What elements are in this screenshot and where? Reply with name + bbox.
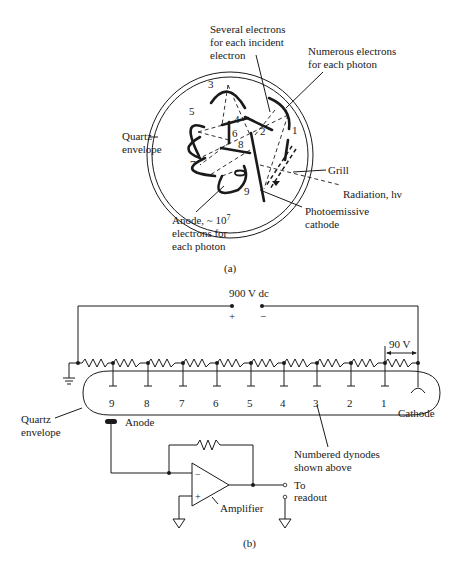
dynode-2 [245,117,272,130]
leader-several [256,55,270,112]
svg-text:for each incident: for each incident [210,36,284,48]
plus-terminal: + [229,310,235,322]
label-step-voltage: 90 V [389,338,411,350]
dynode-number-5: 5 [189,105,195,117]
dynode-number-2: 2 [260,125,266,137]
svg-text:2: 2 [347,397,353,409]
leader-anode [196,186,224,212]
label-several-electrons: Several electrons [210,23,285,35]
dynode-number-9: 9 [244,185,250,197]
label-radiation: Radiation, hν [343,188,402,200]
svg-text:1: 1 [381,397,387,409]
svg-text:6: 6 [213,397,219,409]
dynode-labels-b: 9 8 7 6 5 4 3 2 1 [109,397,387,409]
svg-text:electron: electron [210,49,246,61]
resistor-chain [78,359,418,367]
dynode-number-4: 4 [234,113,240,125]
output-terminal [283,483,287,487]
svg-text:5: 5 [247,397,253,409]
label-to-readout: To [294,479,306,491]
svg-text:for each photon: for each photon [308,58,378,70]
label-quartz-envelope-a: Quartz [122,130,152,142]
svg-text:3: 3 [313,397,319,409]
svg-text:4: 4 [280,397,286,409]
caption-b: (b) [243,537,256,550]
svg-text:shown above: shown above [294,461,352,473]
dynode-number-7: 7 [190,158,196,170]
label-quartz-envelope-b: Quartz [21,413,51,425]
figure-a-cross-section: 3 1 2 4 5 6 7 8 9 Several electrons for … [122,23,402,275]
label-photoemissive-cathode: Photoemissive [305,205,369,217]
dynode-1 [285,140,288,160]
label-anode-b: Anode [125,416,154,428]
svg-text:9: 9 [109,397,115,409]
svg-text:envelope: envelope [21,426,61,438]
caption-a: (a) [224,262,237,275]
label-amplifier: Amplifier [220,502,264,514]
anode-b [105,419,117,424]
figure-b-schematic: 900 V dc + − [21,287,440,550]
dynode-number-8: 8 [238,138,244,150]
anode [235,171,245,176]
svg-text:7: 7 [179,397,185,409]
feedback-resistor [169,440,253,485]
dynode-number-1: 1 [292,124,298,136]
svg-text:readout: readout [294,491,327,503]
svg-text:−: − [195,469,201,480]
dynode-number-3: 3 [208,78,214,90]
label-anode-a: Anode, ~ 107 [172,213,231,226]
svg-text:cathode: cathode [305,218,339,230]
leader-numerous [286,72,323,108]
svg-text:each photon: each photon [172,240,226,252]
svg-text:8: 8 [144,397,150,409]
electron-paths [198,85,340,189]
label-supply-voltage: 900 V dc [229,287,269,299]
leader-cathode [260,190,302,207]
photomultiplier-figure: 3 1 2 4 5 6 7 8 9 Several electrons for … [0,0,461,564]
label-numbered-dynodes: Numbered dynodes [294,448,380,460]
ground-icon [173,519,185,528]
dynode-7 [192,158,215,176]
minus-terminal: − [260,310,266,322]
dynode-8 [221,148,250,153]
svg-text:electrons for: electrons for [172,227,228,239]
dynode-3 [211,92,245,108]
grill [266,146,292,186]
label-grill: Grill [328,164,349,176]
label-numerous-electrons: Numerous electrons [308,45,396,57]
svg-text:+: + [195,491,201,502]
leader-grill [293,170,326,172]
ground-icon [279,519,291,528]
cathode-symbol [411,388,425,393]
ground-icon [63,378,75,384]
svg-text:envelope: envelope [122,143,162,155]
label-cathode-b: Cathode [398,407,435,419]
dynode-1-top [269,98,289,129]
